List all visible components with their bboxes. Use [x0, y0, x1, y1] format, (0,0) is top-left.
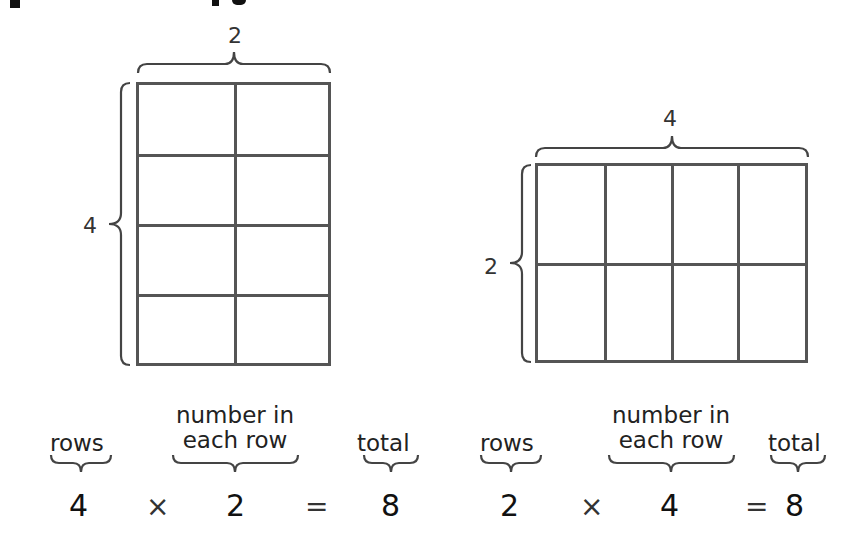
number-underbrace-icon: [608, 453, 736, 475]
product-total: 8: [381, 491, 400, 521]
right-rows-label: 2: [484, 256, 498, 278]
grid-row-divider: [538, 263, 805, 266]
factor-rows: 2: [500, 491, 519, 521]
grid-row-divider: [139, 224, 328, 227]
total-underbrace-icon: [770, 453, 826, 475]
left-grid: [136, 82, 331, 366]
factor-per-row: 4: [660, 491, 679, 521]
equals-sign: =: [305, 493, 328, 521]
number-underbrace-icon: [172, 453, 300, 475]
right-side-brace-icon: [503, 164, 533, 364]
rows-underbrace-icon: [50, 453, 112, 475]
left-rows-label: 4: [83, 215, 97, 237]
cropped-title-fragment: [10, 0, 20, 8]
times-sign: ×: [580, 493, 603, 521]
right-grid: [535, 163, 808, 363]
left-top-brace-icon: [137, 48, 331, 78]
grid-row-divider: [139, 294, 328, 297]
grid-row-divider: [139, 154, 328, 157]
right-top-brace-icon: [535, 132, 809, 162]
times-sign: ×: [146, 493, 169, 521]
cropped-title-fragment: [212, 0, 219, 6]
caption-line-1: number in: [176, 402, 294, 428]
caption-line-1: number in: [612, 402, 730, 428]
equals-sign: =: [745, 493, 768, 521]
left-columns-label: 2: [228, 25, 242, 47]
total-underbrace-icon: [363, 453, 419, 475]
factor-rows: 4: [69, 491, 88, 521]
number-in-each-row-caption: number in each row: [170, 403, 300, 453]
caption-line-2: each row: [183, 427, 288, 453]
right-columns-label: 4: [663, 108, 677, 130]
cropped-title-fragment: [232, 0, 246, 5]
caption-line-2: each row: [619, 427, 724, 453]
product-total: 8: [785, 491, 804, 521]
number-in-each-row-caption: number in each row: [606, 403, 736, 453]
left-side-brace-icon: [102, 82, 132, 368]
factor-per-row: 2: [226, 491, 245, 521]
rows-underbrace-icon: [480, 453, 542, 475]
